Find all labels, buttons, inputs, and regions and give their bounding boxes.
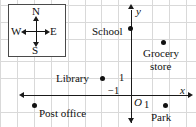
compass-label-south: S xyxy=(32,45,38,56)
point-park[interactable] xyxy=(163,103,169,109)
point-grocery-store[interactable] xyxy=(161,40,167,46)
y-axis-arrow-up xyxy=(128,4,134,9)
x-tick-label-negative-one: −1 xyxy=(108,86,119,97)
compass-rose: N S E W xyxy=(8,4,66,57)
grid-line-vertical xyxy=(186,0,187,127)
grid-line-vertical xyxy=(0,0,1,127)
grid-line-vertical xyxy=(118,0,119,127)
y-axis-label: y xyxy=(136,6,141,17)
y-tick-label-positive-one: 1 xyxy=(119,73,124,84)
x-axis-label: x xyxy=(180,85,185,96)
x-axis-arrow-right xyxy=(188,92,193,98)
compass-label-west: W xyxy=(11,26,21,37)
label-post-office: Post office xyxy=(39,108,86,119)
coordinate-map-figure: y x O 1 −1 1 School Grocery store Librar… xyxy=(0,0,196,127)
grid-line-horizontal xyxy=(0,78,196,79)
label-library: Library xyxy=(56,73,89,84)
label-grocery-store-line1: Grocery xyxy=(143,48,179,59)
x-axis-arrow-left xyxy=(19,92,24,98)
x-axis xyxy=(24,95,188,96)
point-school[interactable] xyxy=(128,26,134,32)
label-grocery-store-line2: store xyxy=(150,61,171,72)
compass-label-north: N xyxy=(32,6,40,17)
label-school: School xyxy=(92,26,123,37)
origin-label: O xyxy=(134,97,142,108)
point-post-office[interactable] xyxy=(32,103,38,109)
x-tick-label-positive-one: 1 xyxy=(144,100,149,111)
compass-horizontal-shaft xyxy=(24,31,47,32)
compass-label-east: E xyxy=(50,26,57,37)
y-axis-arrow-down xyxy=(128,118,134,123)
label-park: Park xyxy=(151,112,171,123)
grid-line-vertical xyxy=(101,0,102,127)
point-library[interactable] xyxy=(100,76,106,82)
